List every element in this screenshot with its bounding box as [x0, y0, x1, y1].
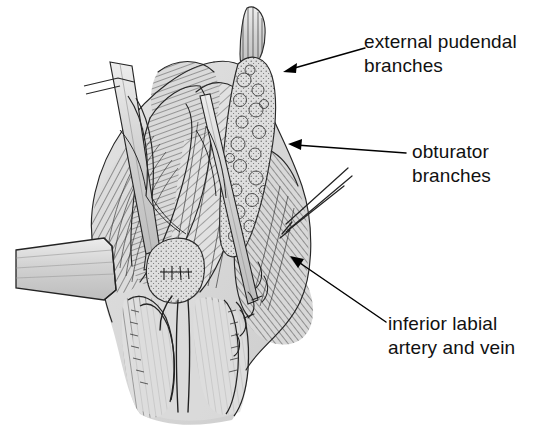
leader-arrow-obturator [288, 139, 406, 153]
label-external-pudendal-branches: external pudendal branches [364, 30, 517, 78]
label-line-1: inferior labial [388, 312, 515, 336]
leader-arrow-external-pudendal [283, 48, 365, 73]
illustration-page: external pudendal branches obturator bra… [0, 0, 555, 429]
label-obturator-branches: obturator branches [412, 140, 491, 188]
label-line-1: external pudendal [364, 30, 517, 54]
label-inferior-labial-artery-and-vein: inferior labial artery and vein [388, 312, 515, 360]
retractor-blade [16, 238, 116, 300]
label-line-2: branches [412, 164, 491, 188]
label-line-2: branches [364, 54, 517, 78]
label-line-2: artery and vein [388, 336, 515, 360]
label-line-1: obturator [412, 140, 491, 164]
urethral-meatus [146, 238, 204, 303]
